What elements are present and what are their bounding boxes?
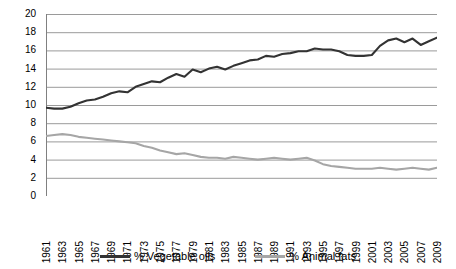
series-line-vegetable-oils <box>46 38 437 109</box>
y-tick-label: 0 <box>30 191 36 201</box>
y-tick-label: 14 <box>25 64 36 74</box>
plot-svg <box>46 14 437 196</box>
legend-item-vegetable-oils: % Vegetable oils <box>100 250 215 262</box>
y-tick-label: 20 <box>25 9 36 19</box>
legend-swatch-vegetable-oils <box>100 255 130 258</box>
legend-label-animal-fats: % Animal fats <box>289 250 356 262</box>
legend-label-vegetable-oils: % Vegetable oils <box>134 250 215 262</box>
y-tick-label: 18 <box>25 27 36 37</box>
x-axis: 1961196319651967196919711973197519771979… <box>46 199 437 243</box>
y-axis: 02468101214161820 <box>0 0 42 196</box>
y-tick-label: 8 <box>30 118 36 128</box>
line-chart: 02468101214161820 1961196319651967196919… <box>0 0 456 269</box>
legend-swatch-animal-fats <box>255 255 285 258</box>
chart-legend: % Vegetable oils % Animal fats <box>0 246 456 266</box>
legend-item-animal-fats: % Animal fats <box>255 250 356 262</box>
y-tick-label: 4 <box>30 155 36 165</box>
y-tick-label: 6 <box>30 136 36 146</box>
plot-area <box>46 14 437 196</box>
y-tick-label: 10 <box>25 100 36 110</box>
series-line-animal-fats <box>46 134 437 169</box>
y-tick-label: 2 <box>30 173 36 183</box>
y-tick-label: 12 <box>25 82 36 92</box>
y-tick-label: 16 <box>25 45 36 55</box>
